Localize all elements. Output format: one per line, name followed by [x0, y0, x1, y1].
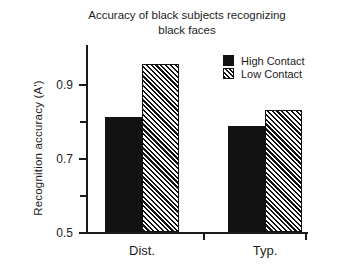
- x-group-label-dist: Dist.: [129, 243, 155, 258]
- bar-dist-high-contact: [105, 117, 142, 232]
- legend-swatch-solid-icon: [223, 55, 234, 66]
- x-group-label-typ: Typ.: [253, 243, 278, 258]
- chart-legend: High Contact Low Contact: [223, 54, 335, 80]
- chart-title: Accuracy of black subjects recognizing b…: [62, 8, 312, 38]
- x-tick-middle: [203, 234, 205, 240]
- x-tick-right: [305, 234, 307, 240]
- y-axis-title: Recognition accuracy (A'): [32, 48, 44, 248]
- y-tick-0.6: [80, 195, 87, 197]
- bar-dist-low-contact: [142, 64, 179, 232]
- legend-label-high-contact: High Contact: [241, 55, 305, 67]
- bar-typ-high-contact: [228, 126, 265, 232]
- y-tick-0.9: [79, 84, 87, 86]
- x-axis-line: [86, 232, 308, 234]
- legend-swatch-hatched-icon: [223, 68, 234, 79]
- legend-item-high-contact: High Contact: [223, 54, 335, 67]
- bar-typ-low-contact: [265, 110, 302, 232]
- legend-item-low-contact: Low Contact: [223, 67, 335, 80]
- y-tick-label-0.9: 0.9: [56, 78, 73, 92]
- chart-title-line-2: black faces: [62, 23, 312, 38]
- legend-label-low-contact: Low Contact: [241, 68, 302, 80]
- bar-chart-figure: Accuracy of black subjects recognizing b…: [0, 0, 344, 276]
- y-tick-label-0.5: 0.5: [56, 226, 73, 240]
- y-axis-line: [86, 45, 88, 234]
- y-tick-0.5: [79, 232, 87, 234]
- y-tick-0.8: [80, 121, 87, 123]
- chart-title-line-1: Accuracy of black subjects recognizing: [62, 8, 312, 23]
- y-tick-0.7: [79, 158, 87, 160]
- y-tick-label-0.7: 0.7: [56, 152, 73, 166]
